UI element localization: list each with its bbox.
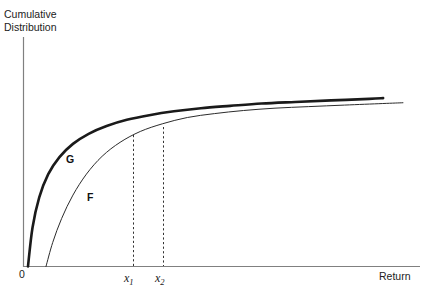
x-tick-label-x1: x1 (124, 271, 134, 287)
x-tick-x1-subscript: 1 (129, 277, 133, 287)
plot-area (0, 0, 428, 293)
cumulative-distribution-chart: CumulativeDistribution Return 0 G F x1 x… (0, 0, 428, 293)
y-axis-label-line2: Distribution (4, 21, 57, 33)
y-axis-label-line1: Cumulative (4, 8, 57, 20)
curve-label-f: F (87, 191, 93, 203)
x-tick-x2-subscript: 2 (160, 277, 164, 287)
curve-f (46, 103, 403, 267)
x-axis-label: Return (379, 270, 411, 282)
origin-label: 0 (19, 268, 25, 280)
curve-label-g: G (66, 153, 74, 165)
x-tick-label-x2: x2 (155, 271, 165, 287)
y-axis-label: CumulativeDistribution (4, 8, 57, 34)
